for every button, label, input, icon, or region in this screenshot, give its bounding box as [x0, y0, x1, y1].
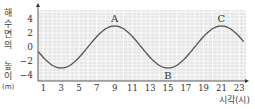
x-tick-label: 1 — [41, 83, 46, 93]
point-label-c: C — [218, 13, 226, 24]
x-tick-label: 19 — [198, 83, 209, 93]
y-tick-label: −4 — [20, 70, 34, 80]
x-tick-label: 5 — [76, 83, 81, 93]
x-tick-label: 3 — [58, 83, 63, 93]
tide-chart: 420−2−4 1357911131517192123 ABC 시각(시) — [0, 0, 255, 109]
plot-background — [38, 10, 246, 81]
y-tick-label: 4 — [27, 14, 33, 24]
x-tick-label: 17 — [180, 83, 191, 93]
x-tick-label: 7 — [94, 83, 99, 93]
x-tick-label: 23 — [234, 83, 245, 93]
x-tick-label: 13 — [145, 83, 156, 93]
x-tick-labels: 1357911131517192123 — [41, 83, 245, 93]
x-tick-label: 21 — [216, 83, 227, 93]
y-tick-label: 2 — [27, 28, 33, 38]
y-tick-labels: 420−2−4 — [20, 14, 34, 80]
point-label-b: B — [164, 70, 171, 81]
y-tick-label: −2 — [20, 56, 33, 66]
point-label-a: A — [110, 13, 119, 24]
x-tick-label: 9 — [112, 83, 117, 93]
y-tick-label: 0 — [27, 42, 33, 52]
x-axis-label: 시각(시) — [219, 94, 250, 105]
x-tick-label: 11 — [127, 83, 138, 93]
x-tick-label: 15 — [163, 83, 174, 93]
